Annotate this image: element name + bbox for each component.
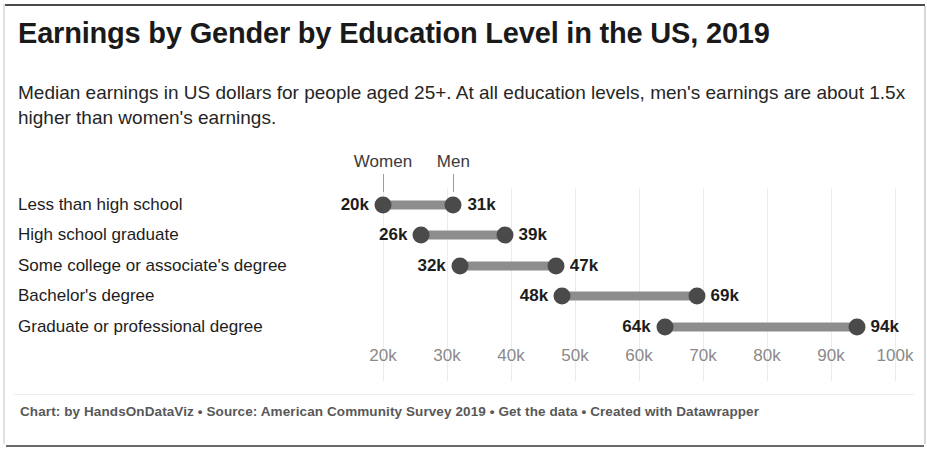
women-value-label: 32k [417,256,445,276]
connector-bar [562,292,696,301]
legend-men-label: Men [437,152,470,172]
men-value-label: 47k [570,256,598,276]
men-value-label: 69k [711,286,739,306]
men-dot[interactable] [496,227,513,244]
women-dot[interactable] [554,288,571,305]
x-axis-tick-label: 60k [625,346,652,366]
x-axis-tick-label: 20k [369,346,396,366]
men-value-label: 39k [519,225,547,245]
women-dot[interactable] [451,257,468,274]
plot-area: 20k30k40k50k60k70k80k90k100kLess than hi… [0,150,927,375]
category-label: Graduate or professional degree [18,317,263,337]
category-label: Bachelor's degree [18,286,155,306]
women-value-label: 26k [379,225,407,245]
chart-footer: Chart: by HandsOnDataViz • Source: Ameri… [20,404,759,419]
women-dot[interactable] [656,318,673,335]
women-dot[interactable] [375,197,392,214]
chart-subtitle: Median earnings in US dollars for people… [18,80,908,130]
men-dot[interactable] [688,288,705,305]
legend-women-stem [383,174,384,192]
women-value-label: 20k [341,195,369,215]
category-label: Some college or associate's degree [18,256,287,276]
women-value-label: 48k [520,286,548,306]
women-value-label: 64k [622,317,650,337]
x-axis-tick-label: 30k [433,346,460,366]
connector-bar [421,231,504,240]
x-axis-tick-label: 50k [561,346,588,366]
men-dot[interactable] [445,197,462,214]
x-axis-tick-label: 100k [877,346,914,366]
card-bottom-border [6,445,924,447]
x-axis-tick-label: 40k [497,346,524,366]
x-axis-tick-label: 90k [817,346,844,366]
men-value-label: 94k [871,317,899,337]
chart-card: Earnings by Gender by Education Level in… [0,0,927,450]
category-label: Less than high school [18,195,182,215]
connector-bar [665,322,857,331]
men-dot[interactable] [848,318,865,335]
chart-title: Earnings by Gender by Education Level in… [18,17,770,50]
x-axis-tick-label: 80k [753,346,780,366]
connector-bar [460,261,556,270]
men-value-label: 31k [467,195,495,215]
x-axis-tick-label: 70k [689,346,716,366]
connector-bar [383,201,453,210]
legend-women-label: Women [354,152,412,172]
category-label: High school graduate [18,225,179,245]
card-top-border [4,4,925,6]
women-dot[interactable] [413,227,430,244]
legend-men-stem [453,174,454,192]
men-dot[interactable] [547,257,564,274]
footer-divider [14,394,914,395]
